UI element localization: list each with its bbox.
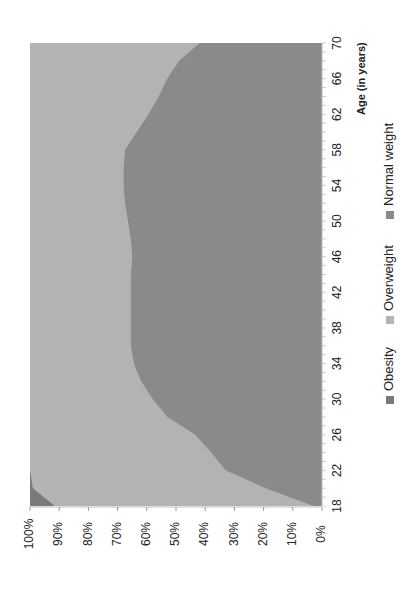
age-tick-label: 30 — [330, 392, 344, 406]
legend-swatch-obesity — [386, 396, 394, 404]
age-tick-label: 62 — [330, 107, 344, 121]
age-tick-label: 46 — [330, 250, 344, 264]
legend-label-overweight: Overweight — [381, 245, 396, 311]
x-axis-title: Age (in years) — [355, 42, 367, 115]
chart-container: 1822263034384246505458626670Age (in year… — [0, 0, 409, 595]
legend-swatch-overweight — [386, 316, 394, 324]
legend-swatch-normal-weight — [386, 211, 394, 219]
percent-tick-label: 20% — [256, 522, 270, 546]
stacked-area-chart: 1822263034384246505458626670Age (in year… — [0, 0, 409, 595]
age-tick-label: 66 — [330, 72, 344, 86]
percent-tick-label: 0% — [314, 525, 328, 543]
percent-tick-label: 90% — [51, 522, 65, 546]
percent-tick-label: 80% — [81, 522, 95, 546]
age-tick-label: 38 — [330, 321, 344, 335]
age-tick-label: 22 — [330, 463, 344, 477]
legend: ObesityOverweightNormal weight — [381, 123, 396, 404]
age-tick-label: 70 — [330, 36, 344, 50]
percent-tick-label: 100% — [22, 518, 36, 549]
percent-tick-label: 40% — [197, 522, 211, 546]
percent-tick-label: 10% — [285, 522, 299, 546]
age-tick-label: 26 — [330, 428, 344, 442]
legend-label-normal-weight: Normal weight — [381, 123, 396, 206]
age-tick-label: 18 — [330, 499, 344, 513]
age-tick-label: 42 — [330, 285, 344, 299]
legend-label-obesity: Obesity — [381, 346, 396, 391]
percent-tick-label: 50% — [168, 522, 182, 546]
percent-tick-label: 70% — [110, 522, 124, 546]
plot-area — [30, 43, 322, 506]
age-tick-label: 34 — [330, 357, 344, 371]
percent-tick-label: 60% — [139, 522, 153, 546]
age-tick-label: 54 — [330, 178, 344, 192]
percent-tick-label: 30% — [227, 522, 241, 546]
age-tick-label: 50 — [330, 214, 344, 228]
age-tick-label: 58 — [330, 143, 344, 157]
